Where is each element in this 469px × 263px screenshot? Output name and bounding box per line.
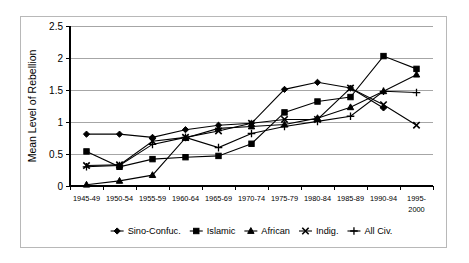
series-african [83,71,419,187]
y-axis-title: Mean Level of Rebellion [26,50,38,163]
data-point-marker [315,99,320,104]
x-tick-label: 1965-69 [205,194,232,203]
y-tick-label: 2.5 [49,21,63,32]
data-point-marker [114,228,120,234]
data-point-marker [150,156,155,161]
x-tick-label: 1950-54 [106,194,133,203]
data-point-marker [413,71,419,77]
x-tick-label: 2000 [408,205,424,214]
x-tick-label: 1990-94 [370,194,397,203]
data-point-marker [381,53,386,58]
data-point-marker [183,155,188,160]
data-point-marker [83,163,91,171]
series-line [87,75,417,185]
x-tick-label: 1980-84 [304,194,331,203]
y-tick-label: 1.5 [49,85,63,96]
legend-item-all-civ[interactable]: All Civ. [347,226,392,236]
legend-item-indig[interactable]: Indig. [299,226,338,236]
legend-label: Islamic [207,226,236,236]
data-point-marker [194,228,199,233]
data-point-marker [215,144,223,152]
y-tick-label: 2 [57,53,63,64]
x-tick-label: 1960-64 [172,194,199,203]
legend: Sino-Confuc.IslamicAfricanIndig.All Civ. [111,226,393,236]
data-point-marker [83,131,89,137]
data-point-marker [216,153,221,158]
data-point-marker [350,227,358,235]
x-tick-label: 1970-74 [238,194,265,203]
series-islamic [84,53,419,169]
data-point-marker [182,127,188,133]
data-point-marker [248,130,256,138]
legend-label: Indig. [316,226,338,236]
legend-label: All Civ. [364,226,392,236]
line-chart: 00.511.522.5Mean Level of Rebellion1945-… [21,17,448,249]
y-tick-label: 0 [57,181,63,192]
chart-frame: 00.511.522.5Mean Level of Rebellion1945-… [20,16,447,248]
y-tick-label: 1 [57,117,63,128]
x-tick-label: 1945-49 [73,194,100,203]
data-point-marker [149,141,157,149]
data-point-marker [116,131,122,137]
x-tick-label: 1975-79 [271,194,298,203]
legend-item-african[interactable]: African [244,226,290,236]
legend-item-sino-confuc[interactable]: Sino-Confuc. [111,226,181,236]
series-line [87,82,384,137]
x-tick-label: 1955-59 [139,194,166,203]
legend-label: African [261,226,290,236]
data-point-marker [413,122,419,128]
data-point-marker [84,149,89,154]
legend-label: Sino-Confuc. [128,226,181,236]
legend-item-islamic[interactable]: Islamic [190,226,236,236]
data-point-marker [348,94,353,99]
data-point-marker [282,110,287,115]
data-point-marker [249,141,254,146]
x-tick-label: 1985-89 [337,194,364,203]
series-line [87,56,417,167]
x-tick-label: 1995- [407,194,426,203]
data-point-marker [314,79,320,85]
y-tick-label: 0.5 [49,149,63,160]
